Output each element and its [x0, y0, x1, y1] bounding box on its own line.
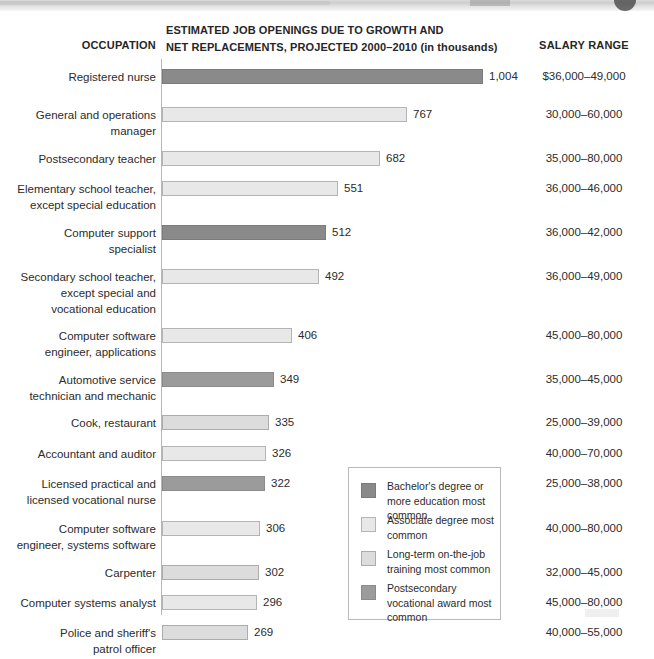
row-occupation-label-line: patrol officer: [4, 641, 156, 657]
row-salary-range: 40,000–55,000: [520, 625, 648, 640]
bar-associate: [162, 446, 266, 461]
row-occupation-label-line: specialist: [4, 241, 156, 257]
page-smudge: [585, 609, 619, 617]
row-occupation-label-line: vocational education: [4, 301, 156, 317]
row-occupation-label: Computer softwareengineer, applications: [4, 328, 156, 360]
row-salary-range: 32,000–45,000: [520, 565, 648, 580]
scan-artifact-blob: [614, 0, 636, 11]
bar-associate: [162, 521, 260, 536]
bar-value-label: 335: [275, 415, 294, 430]
bar-value-label: 551: [344, 181, 363, 196]
row-occupation-label: Postsecondary teacher: [4, 151, 156, 167]
bar-value-label: 269: [254, 625, 273, 640]
row-occupation-label-line: Computer software: [4, 521, 156, 537]
bar-value-label: 512: [332, 225, 351, 240]
row-occupation-label: Automotive servicetechnician and mechani…: [4, 372, 156, 404]
bar-associate: [162, 181, 338, 196]
row-salary-range: 30,000–60,000: [520, 107, 648, 122]
row-occupation-label: Accountant and auditor: [4, 446, 156, 462]
legend-label: Postsecondary vocational award most comm…: [387, 581, 499, 625]
legend-swatch-longterm-icon: [361, 551, 376, 566]
bar-associate: [162, 269, 319, 284]
bar-value-label: 492: [325, 269, 344, 284]
row-occupation-label: Computer systems analyst: [4, 595, 156, 611]
row-occupation-label-line: Elementary school teacher,: [4, 181, 156, 197]
bar-value-label: 306: [266, 521, 285, 536]
table-row: General and operationsmanager76730,000–6…: [0, 107, 654, 155]
row-salary-range: 40,000–80,000: [520, 521, 648, 536]
bar-associate: [162, 151, 380, 166]
bar-associate: [162, 107, 407, 122]
row-occupation-label-line: Computer systems analyst: [4, 595, 156, 611]
chart-title-line-2: NET REPLACEMENTS, PROJECTED 2000–2010 (i…: [166, 39, 536, 56]
table-row: Carpenter30232,000–45,000: [0, 565, 654, 599]
column-header-job-openings: ESTIMATED JOB OPENINGS DUE TO GROWTH AND…: [166, 22, 536, 56]
table-row: Secondary school teacher,except special …: [0, 269, 654, 331]
chart-title-line-1: ESTIMATED JOB OPENINGS DUE TO GROWTH AND: [166, 22, 536, 39]
row-occupation-label-line: engineer, applications: [4, 344, 156, 360]
row-salary-range: 35,000–45,000: [520, 372, 648, 387]
row-occupation-label: Cook, restaurant: [4, 415, 156, 431]
row-salary-range: 36,000–49,000: [520, 269, 648, 284]
row-occupation-label-line: Cook, restaurant: [4, 415, 156, 431]
row-occupation-label-line: Police and sheriff's: [4, 625, 156, 641]
table-row: Computer systems analyst29645,000–80,000: [0, 595, 654, 629]
row-salary-range: $36,000–49,000: [520, 69, 648, 84]
legend-item-longterm: Long-term on-the-job training most commo…: [361, 547, 497, 581]
row-occupation-label-line: Carpenter: [4, 565, 156, 581]
bar-bachelor: [162, 69, 483, 84]
legend-swatch-bachelor-icon: [361, 483, 376, 498]
chart-page: OCCUPATION ESTIMATED JOB OPENINGS DUE TO…: [0, 11, 654, 620]
row-salary-range: 35,000–80,000: [520, 151, 648, 166]
bar-value-label: 349: [280, 372, 299, 387]
row-occupation-label: Police and sheriff'spatrol officer: [4, 625, 156, 657]
table-row: Computer supportspecialist51236,000–42,0…: [0, 225, 654, 273]
bar-value-label: 322: [271, 476, 290, 491]
bar-postsec: [162, 476, 265, 491]
bar-associate: [162, 595, 257, 610]
bar-chart-plot: Registered nurse1,004$36,000–49,000Gener…: [0, 57, 654, 617]
row-occupation-label-line: except special and: [4, 285, 156, 301]
row-occupation-label-line: Accountant and auditor: [4, 446, 156, 462]
row-salary-range: 36,000–42,000: [520, 225, 648, 240]
row-occupation-label: Secondary school teacher,except special …: [4, 269, 156, 317]
column-header-salary-range: SALARY RANGE: [520, 39, 648, 51]
table-row: Registered nurse1,004$36,000–49,000: [0, 69, 654, 103]
row-occupation-label: Elementary school teacher,except special…: [4, 181, 156, 213]
table-row: Computer softwareengineer, applications4…: [0, 328, 654, 376]
legend-swatch-associate-icon: [361, 517, 376, 532]
row-salary-range: 40,000–70,000: [520, 446, 648, 461]
row-occupation-label: Licensed practical andlicensed vocationa…: [4, 476, 156, 508]
bar-value-label: 326: [272, 446, 291, 461]
row-salary-range: 45,000–80,000: [520, 328, 648, 343]
table-row: Automotive servicetechnician and mechani…: [0, 372, 654, 420]
row-occupation-label-line: engineer, systems software: [4, 537, 156, 553]
bar-value-label: 302: [265, 565, 284, 580]
table-row: Postsecondary teacher68235,000–80,000: [0, 151, 654, 185]
bar-postsec: [162, 372, 274, 387]
row-salary-range: 45,000–80,000: [520, 595, 648, 610]
table-row: Accountant and auditor32640,000–70,000: [0, 446, 654, 480]
bar-associate: [162, 328, 292, 343]
row-occupation-label-line: technician and mechanic: [4, 388, 156, 404]
legend-swatch-postsec-icon: [361, 585, 376, 600]
bar-value-label: 406: [298, 328, 317, 343]
table-row: Police and sheriff'spatrol officer26940,…: [0, 625, 654, 659]
table-row: Cook, restaurant33525,000–39,000: [0, 415, 654, 449]
bar-value-label: 767: [413, 107, 432, 122]
table-row: Elementary school teacher,except special…: [0, 181, 654, 229]
row-occupation-label: Registered nurse: [4, 69, 156, 85]
legend-item-bachelor: Bachelor's degree or more education most…: [361, 479, 497, 513]
table-row: Computer softwareengineer, systems softw…: [0, 521, 654, 569]
row-occupation-label-line: Licensed practical and: [4, 476, 156, 492]
legend-item-postsec: Postsecondary vocational award most comm…: [361, 581, 497, 615]
bar-value-label: 296: [263, 595, 282, 610]
legend-label: Associate degree most common: [387, 513, 499, 542]
row-occupation-label: General and operationsmanager: [4, 107, 156, 139]
row-salary-range: 36,000–46,000: [520, 181, 648, 196]
row-occupation-label-line: Registered nurse: [4, 69, 156, 85]
row-occupation-label: Computer supportspecialist: [4, 225, 156, 257]
row-occupation-label-line: Computer software: [4, 328, 156, 344]
row-salary-range: 25,000–39,000: [520, 415, 648, 430]
row-occupation-label-line: Secondary school teacher,: [4, 269, 156, 285]
